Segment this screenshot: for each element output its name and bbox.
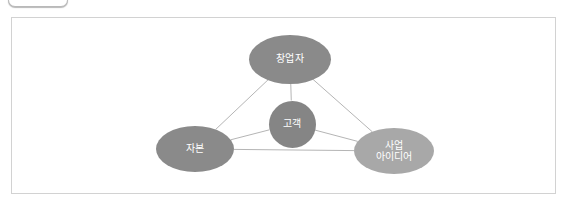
diagram-node-label-business-idea: 사업 아이디어 — [354, 128, 434, 174]
diagram-edge-founder-to-business-idea — [313, 79, 372, 131]
diagram-edge-customer-to-capital — [231, 130, 270, 140]
diagram-node-capital[interactable]: 자본 — [156, 126, 234, 172]
diagram-node-founder[interactable]: 창업자 — [249, 35, 331, 84]
diagram-edge-founder-to-customer — [291, 83, 292, 100]
diagram-frame: 창업자고객자본사업 아이디어 — [11, 17, 556, 194]
diagram-node-customer[interactable]: 고객 — [269, 101, 316, 148]
diagram-edge-capital-to-business-idea — [234, 149, 354, 150]
diagram-node-label-founder: 창업자 — [249, 35, 331, 84]
cut-off-rounded-control[interactable] — [8, 0, 68, 7]
diagram-node-label-capital: 자본 — [156, 126, 234, 172]
diagram-edge-founder-to-capital — [216, 80, 269, 130]
diagram-edge-customer-to-business-idea — [315, 130, 358, 141]
diagram-node-label-customer: 고객 — [269, 101, 316, 148]
diagram-canvas: 창업자고객자본사업 아이디어 — [12, 18, 555, 193]
diagram-node-business-idea[interactable]: 사업 아이디어 — [354, 128, 434, 174]
